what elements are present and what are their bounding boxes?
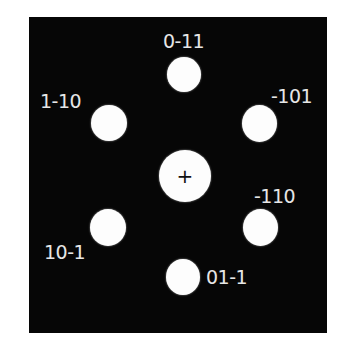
- label-10-1: 10-1: [44, 243, 85, 262]
- label-1-10: 1-10: [40, 92, 81, 111]
- spot--110: [243, 209, 278, 246]
- label-0-11: 0-11: [163, 32, 204, 51]
- spot-10-1: [90, 209, 126, 246]
- spot-0-11: [167, 57, 201, 92]
- spot-1-10: [91, 105, 127, 141]
- spot-01-1: [166, 259, 200, 295]
- label--110: -110: [254, 187, 295, 206]
- spot--101: [242, 105, 277, 142]
- center-spot: +: [159, 150, 211, 202]
- label--101: -101: [271, 87, 312, 106]
- label-01-1: 01-1: [206, 268, 247, 287]
- center-plus-marker: +: [177, 166, 194, 186]
